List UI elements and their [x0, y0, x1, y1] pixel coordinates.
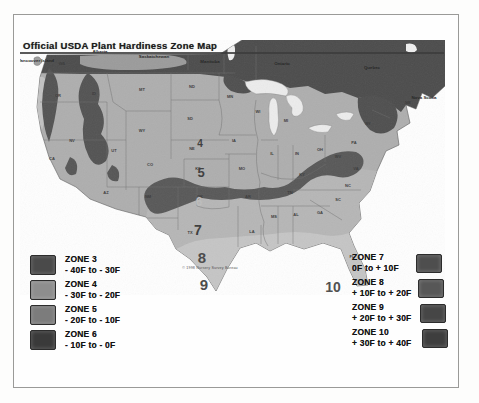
zone8-label: ZONE 8 [352, 277, 412, 288]
legend-item-zone9: ZONE 9+ 20F to + 30F [352, 302, 448, 324]
legend-item-zone5: ZONE 5- 20F to - 10F [30, 304, 120, 326]
zone7-label: ZONE 7 [352, 252, 399, 263]
legend-left: ZONE 3- 40F to - 30F ZONE 4- 30F to - 20… [30, 254, 120, 354]
legend-item-zone3: ZONE 3- 40F to - 30F [30, 254, 120, 276]
zone4-color-swatch [30, 280, 56, 300]
zone5-range: - 20F to - 10F [65, 315, 120, 326]
zone3-color-swatch [30, 255, 56, 275]
zone8-range: + 10F to + 20F [352, 288, 412, 299]
map-title: Official USDA Plant Hardiness Zone Map [23, 40, 217, 51]
zone10-color-swatch [422, 329, 448, 348]
zone3-range: - 40F to - 30F [65, 265, 120, 276]
zone6-range: - 10F to - 0F [65, 340, 115, 351]
legend-item-zone8: ZONE 8+ 10F to + 20F [352, 277, 448, 299]
zone6-color-swatch [30, 330, 56, 350]
zone7-range: 0F to + 10F [352, 263, 399, 274]
zone5-label: ZONE 5 [65, 304, 120, 315]
zone3-label: ZONE 3 [65, 254, 120, 265]
zone9-label: ZONE 9 [352, 302, 412, 313]
zone7-color-swatch [416, 254, 442, 273]
legend-right: ZONE 70F to + 10F ZONE 8+ 10F to + 20F Z… [352, 252, 448, 352]
cropped-text-artifact [118, 0, 236, 4]
zone6-label: ZONE 6 [65, 329, 115, 340]
zone10-label: ZONE 10 [352, 327, 412, 338]
scanned-page: Official USDA Plant Hardiness Zone Map [0, 0, 479, 403]
legend-item-zone7: ZONE 70F to + 10F [352, 252, 448, 274]
zone4-range: - 30F to - 20F [65, 290, 120, 301]
title-underline [20, 52, 444, 54]
zone9-color-swatch [420, 304, 446, 323]
legend-item-zone6: ZONE 6- 10F to - 0F [30, 329, 120, 351]
zone8-color-swatch [418, 279, 444, 298]
zone4-label: ZONE 4 [65, 279, 120, 290]
legend-item-zone10: ZONE 10+ 30F to + 40F [352, 327, 448, 349]
zone10-range: + 30F to + 40F [352, 338, 412, 349]
zone5-color-swatch [30, 305, 56, 325]
zone9-range: + 20F to + 30F [352, 313, 412, 324]
legend-item-zone4: ZONE 4- 30F to - 20F [30, 279, 120, 301]
